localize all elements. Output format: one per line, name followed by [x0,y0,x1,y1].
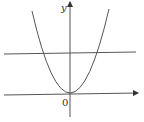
origin-label: 0 [62,97,68,108]
y-axis-label: y [60,2,67,13]
graph-canvas: y 0 [0,0,144,122]
